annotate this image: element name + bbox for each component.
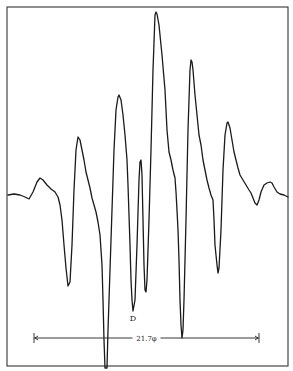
waveform-figure: D 21.7φ <box>0 0 293 371</box>
peak-label-d: D <box>130 314 136 323</box>
scale-bar-label: 21.7φ <box>136 335 157 343</box>
scale-bar: 21.7φ <box>34 333 259 343</box>
waveform-trace <box>8 12 288 368</box>
